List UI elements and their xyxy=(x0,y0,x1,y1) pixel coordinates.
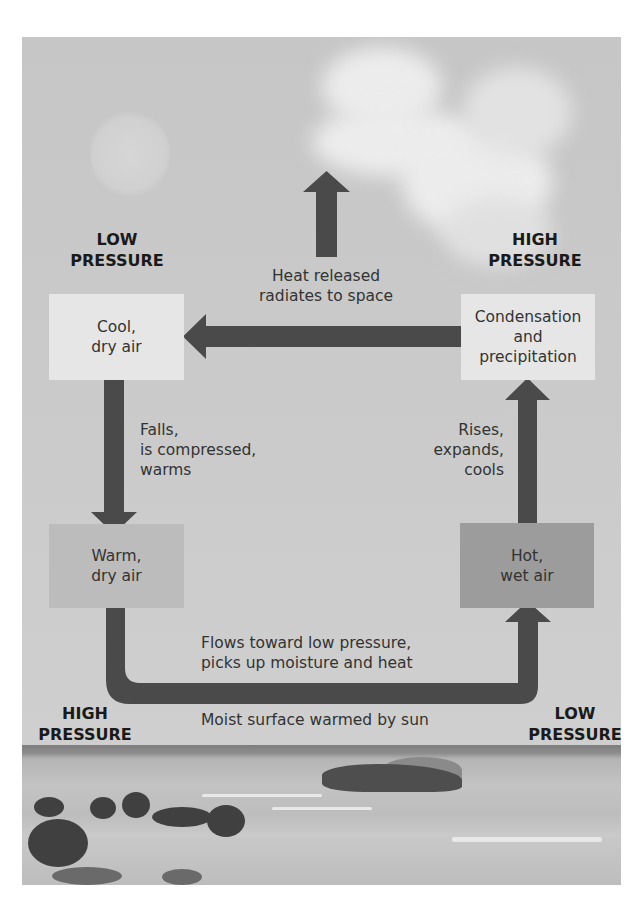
arrows-layer xyxy=(0,0,643,908)
arrow-down-to-warm xyxy=(91,380,137,534)
label-falls: Falls, is compressed, warms xyxy=(140,420,256,480)
arrow-up-to-condensation xyxy=(505,378,550,523)
label-moist-surface: Moist surface warmed by sun xyxy=(201,710,429,730)
arrow-up-to-space xyxy=(303,171,350,257)
label-heat-released: Heat released radiates to space xyxy=(246,266,406,306)
box-cool-dry-air: Cool, dry air xyxy=(49,294,184,380)
pressure-label-top-right: HIGH PRESSURE xyxy=(470,229,600,271)
arrow-left-to-cool xyxy=(183,314,461,359)
label-flows: Flows toward low pressure, picks up mois… xyxy=(201,633,413,673)
pressure-label-top-left: LOW PRESSURE xyxy=(52,229,182,271)
pressure-label-bottom-left: HIGH PRESSURE xyxy=(20,703,150,745)
pressure-label-bottom-right: LOW PRESSURE xyxy=(510,703,640,745)
box-hot-wet-air: Hot, wet air xyxy=(460,523,594,608)
box-condensation: Condensation and precipitation xyxy=(461,294,595,380)
box-warm-dry-air: Warm, dry air xyxy=(49,524,184,608)
label-rises: Rises, expands, cools xyxy=(400,420,504,480)
